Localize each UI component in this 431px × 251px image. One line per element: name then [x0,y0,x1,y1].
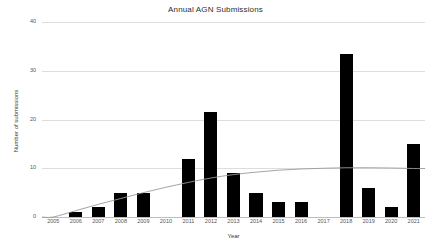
x-tick-label-2018: 2018 [335,219,358,225]
x-tick-label-2013: 2013 [222,219,245,225]
x-tick-label-2005: 2005 [42,219,65,225]
chart-title: Annual AGN Submissions [0,5,431,14]
plot-area [42,22,425,217]
trend-line-series [42,22,425,217]
x-tick-label-2015: 2015 [267,219,290,225]
y-tick-label-0: 0 [6,214,36,220]
y-tick-label-10: 10 [6,165,36,171]
y-axis-title: Number of submissions [13,61,19,181]
x-tick-label-2009: 2009 [132,219,155,225]
x-tick-label-2007: 2007 [87,219,110,225]
y-tick-label-30: 30 [6,68,36,74]
trend-line-path [42,168,425,218]
y-tick-label-40: 40 [6,19,36,25]
chart-figure: Annual AGN Submissions 010203040 2005200… [0,0,431,251]
x-axis-tick-labels: 2005200620072008200920102011201220132014… [42,219,425,231]
x-tick-label-2014: 2014 [245,219,268,225]
x-tick-label-2012: 2012 [200,219,223,225]
x-tick-label-2017: 2017 [312,219,335,225]
x-tick-label-2021: 2021 [402,219,425,225]
y-tick-label-20: 20 [6,117,36,123]
x-tick-label-2020: 2020 [380,219,403,225]
x-tick-label-2008: 2008 [110,219,133,225]
x-tick-label-2016: 2016 [290,219,313,225]
x-axis-title: Year [42,233,425,239]
x-tick-label-2010: 2010 [155,219,178,225]
x-tick-label-2006: 2006 [65,219,88,225]
x-tick-label-2011: 2011 [177,219,200,225]
x-tick-label-2019: 2019 [357,219,380,225]
